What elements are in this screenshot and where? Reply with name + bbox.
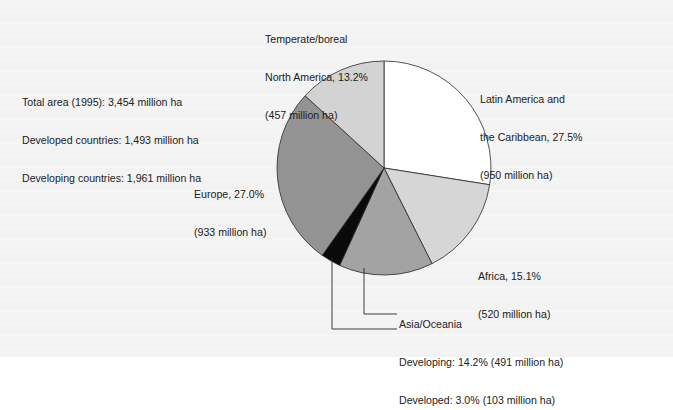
north-america-label: Temperate/boreal North America, 13.2% (4… xyxy=(265,8,368,147)
africa-label-line1: Africa, 15.1% xyxy=(478,270,550,283)
summary-developed: Developed countries: 1,493 million ha xyxy=(22,134,201,147)
north-america-label-line3: (457 million ha) xyxy=(265,109,368,122)
north-america-label-line1: Temperate/boreal xyxy=(265,33,368,46)
latin-america-label: Latin America and the Caribbean, 27.5% (… xyxy=(480,68,582,207)
europe-label: Europe, 27.0% (933 million ha) xyxy=(194,163,266,264)
latin-america-label-line2: the Caribbean, 27.5% xyxy=(480,131,582,144)
summary-label: Total area (1995): 3,454 million ha Deve… xyxy=(22,71,201,210)
asia-oceania-developed: Developed: 3.0% (103 million ha) xyxy=(399,394,563,407)
asia-oceania-label: Asia/Oceania Developing: 14.2% (491 mill… xyxy=(399,293,563,410)
summary-total: Total area (1995): 3,454 million ha xyxy=(22,96,201,109)
europe-label-line2: (933 million ha) xyxy=(194,226,266,239)
pie-slice-latin-america-and-the-caribbean xyxy=(384,61,491,185)
europe-label-line1: Europe, 27.0% xyxy=(194,188,266,201)
latin-america-label-line3: (950 million ha) xyxy=(480,169,582,182)
asia-oceania-heading: Asia/Oceania xyxy=(399,318,563,331)
latin-america-label-line1: Latin America and xyxy=(480,93,582,106)
summary-developing: Developing countries: 1,961 million ha xyxy=(22,172,201,185)
north-america-label-line2: North America, 13.2% xyxy=(265,71,368,84)
asia-oceania-developing: Developing: 14.2% (491 million ha) xyxy=(399,356,563,369)
